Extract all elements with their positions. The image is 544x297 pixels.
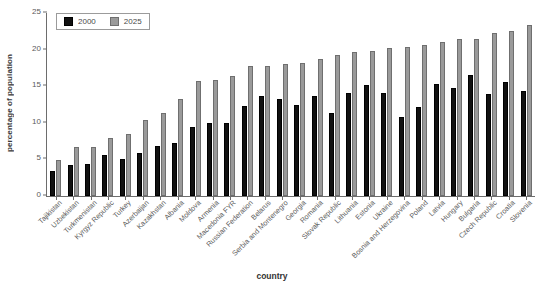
bar-group [465,13,482,196]
bar-2000 [68,165,73,196]
bar-group [326,13,343,196]
bar-2025 [91,147,96,196]
bar-2025 [405,47,410,196]
bar-2000 [172,143,177,196]
bar-2025 [527,25,532,196]
bar-2000 [468,75,473,196]
bar-2025 [230,76,235,196]
legend-entry-2025: 2025 [110,17,142,26]
bar-2000 [155,146,160,197]
bar-2025 [126,134,131,196]
legend-label-2000: 2000 [78,17,96,26]
bar-2025 [440,42,445,196]
bar-2000 [521,91,526,196]
cropped-caption [7,290,407,297]
bar-group [152,13,169,196]
bar-group [221,13,238,196]
bar-2025 [74,147,79,196]
bar-group [483,13,500,196]
bar-2025 [283,64,288,196]
bar-2025 [335,55,340,196]
bar-2025 [370,51,375,196]
bar-group [117,13,134,196]
bar-2000 [381,93,386,196]
bar-group [204,13,221,196]
bar-2025 [196,81,201,196]
x-axis-title: country [0,271,544,281]
bar-group [448,13,465,196]
y-axis-tick-label: 15 [32,80,41,89]
bar-group [518,13,535,196]
bar-2025 [474,39,479,196]
bar-2000 [346,93,351,196]
bar-2000 [329,113,334,196]
bar-2000 [224,123,229,196]
bar-2025 [387,48,392,196]
bar-2000 [85,164,90,196]
bar-2000 [102,155,107,196]
bar-group [274,13,291,196]
bar-2000 [120,159,125,196]
bar-group [99,13,116,196]
bar-2025 [248,66,253,196]
bar-2000 [277,99,282,196]
bar-group [308,13,325,196]
bar-2000 [50,171,55,196]
x-axis-tick-labels: TajikistanUzbekistanTurkmenistanKyrgyz R… [46,199,535,265]
y-axis-title-label: percentage of population [5,54,14,152]
bar-group [396,13,413,196]
bar-group [430,13,447,196]
bar-2025 [300,63,305,196]
y-axis-tick-label: 0 [37,190,41,199]
bar-2000 [434,84,439,196]
bar-group [169,13,186,196]
bar-2000 [207,123,212,196]
bar-2000 [259,96,264,196]
bar-2000 [451,88,456,196]
bar-2025 [265,66,270,196]
bar-group [291,13,308,196]
bar-chart: percentage of population 0510152025 Taji… [0,0,544,297]
bar-2000 [486,94,491,196]
bar-2025 [492,33,497,196]
y-axis-tick-label: 25 [32,7,41,16]
plot-area: 0510152025 [46,13,535,197]
bar-2000 [312,96,317,196]
bar-2025 [509,31,514,196]
y-axis-tick-label: 20 [32,43,41,52]
bar-2025 [161,113,166,196]
bar-group [256,13,273,196]
bar-group [361,13,378,196]
bar-group [82,13,99,196]
y-axis-title: percentage of population [0,0,18,205]
bar-2000 [190,127,195,196]
bar-2025 [178,99,183,196]
bar-2000 [364,85,369,196]
bar-2025 [457,39,462,196]
bar-2000 [399,117,404,196]
bar-group [343,13,360,196]
bar-2025 [108,138,113,196]
bar-2025 [56,160,61,196]
bar-2025 [318,59,323,196]
legend-swatch-2025 [110,17,119,26]
bar-2000 [242,106,247,196]
chart-legend: 2000 2025 [56,13,150,30]
bar-group [64,13,81,196]
bar-group [47,13,64,196]
y-axis-tick-label: 5 [37,153,41,162]
bar-2025 [422,45,427,196]
bar-2025 [352,52,357,196]
bar-2000 [137,153,142,196]
bar-group [378,13,395,196]
bar-group [186,13,203,196]
bar-group [134,13,151,196]
legend-label-2025: 2025 [124,17,142,26]
bar-group [500,13,517,196]
bar-2025 [213,80,218,196]
bars-layer [47,13,535,196]
bar-2025 [143,120,148,196]
bar-group [413,13,430,196]
bar-2000 [294,105,299,197]
bar-2000 [416,107,421,196]
